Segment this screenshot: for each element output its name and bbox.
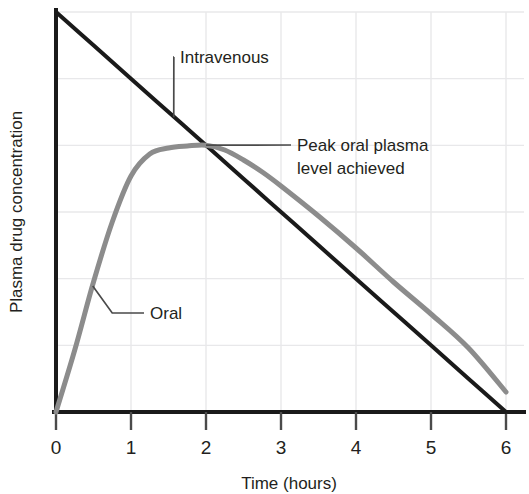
x-axis-ticks — [56, 412, 506, 430]
annotation-leader-oral — [93, 286, 144, 313]
pharmacokinetics-plot: IntravenousPeak oral plasmalevel achieve… — [0, 0, 529, 494]
x-tick-label: 3 — [276, 437, 287, 458]
annotation-label-intravenous: Intravenous — [180, 48, 269, 67]
chart-figure: IntravenousPeak oral plasmalevel achieve… — [0, 0, 529, 494]
x-tick-label: 6 — [501, 437, 512, 458]
x-axis-tick-labels: 0123456 — [51, 437, 512, 458]
x-tick-label: 1 — [126, 437, 137, 458]
annotation-label-peak-oral: Peak oral plasmalevel achieved — [297, 136, 429, 178]
annotation-line: Intravenous — [180, 48, 269, 67]
y-axis-title: Plasma drug concentration — [7, 111, 26, 313]
annotation-line: Oral — [150, 304, 182, 323]
x-tick-label: 5 — [426, 437, 437, 458]
x-tick-label: 4 — [351, 437, 362, 458]
x-tick-label: 2 — [201, 437, 212, 458]
annotation-line: Peak oral plasma — [297, 136, 429, 155]
x-axis-title: Time (hours) — [241, 474, 337, 493]
annotation-line: level achieved — [297, 159, 405, 178]
x-tick-label: 0 — [51, 437, 62, 458]
annotation-label-oral: Oral — [150, 304, 182, 323]
